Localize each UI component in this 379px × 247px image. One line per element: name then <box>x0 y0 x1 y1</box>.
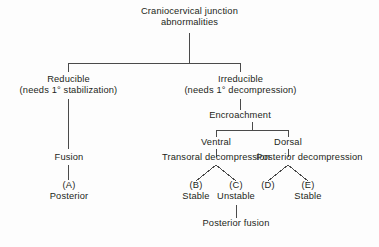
connector-posterior-to-d <box>268 165 288 181</box>
connector-transoral-to-c <box>216 165 236 181</box>
outcome-e-label: Stable <box>278 191 338 202</box>
connector-diagonals <box>0 0 379 247</box>
outcome-a-tag: (A) <box>63 180 76 190</box>
outcome-a: (A) Posterior <box>39 180 99 202</box>
outcome-d-tag: (D) <box>261 180 274 190</box>
flowchart-canvas: Craniocervical junction abnormalities Re… <box>0 0 379 247</box>
node-posterior-fusion: Posterior fusion <box>176 218 296 229</box>
outcome-b-tag: (B) <box>190 180 203 190</box>
connector-transoral-to-b <box>196 165 216 181</box>
outcome-e-tag: (E) <box>302 180 315 190</box>
outcome-c-label: Unstable <box>206 191 266 202</box>
connector-unstable-to-posterior-fusion <box>236 205 237 218</box>
connector-posterior-to-e <box>288 165 308 181</box>
outcome-a-label: Posterior <box>39 191 99 202</box>
outcome-e: (E) Stable <box>278 180 338 202</box>
